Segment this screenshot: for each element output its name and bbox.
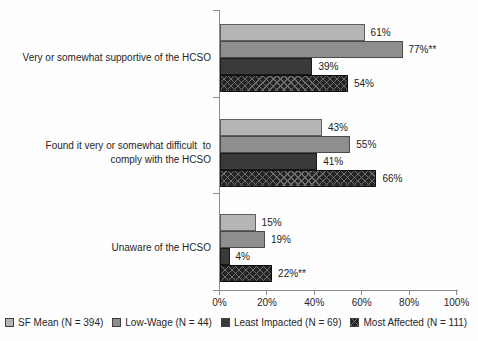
category-label-line: Found it very or somewhat difficult to: [46, 139, 211, 153]
legend-swatch-low-wage: [112, 318, 121, 327]
bar-group-row: Found it very or somewhat difficult toco…: [0, 119, 478, 187]
legend-swatch-least-impacted: [221, 318, 230, 327]
value-label: 41%: [323, 156, 343, 167]
bar-low-wage: [220, 41, 403, 58]
value-label: 43%: [328, 122, 348, 133]
x-tick-label: 80%: [399, 297, 419, 308]
bar-group: Unaware of the HCSO15%19%4%22%**: [0, 193, 478, 290]
bar-row: 4%: [220, 248, 306, 265]
x-axis-tick: [361, 291, 362, 295]
category-label: Unaware of the HCSO: [0, 214, 220, 282]
x-axis-tick: [409, 291, 410, 295]
bar-most-affected: [220, 265, 272, 282]
bar-row: 15%: [220, 214, 306, 231]
x-tick-label: 0%: [212, 297, 226, 308]
category-label: Very or somewhat supportive of the HCSO: [0, 24, 220, 92]
value-label: 66%: [382, 173, 402, 184]
bar-group-row: Unaware of the HCSO15%19%4%22%**: [0, 214, 478, 282]
bar-group: Found it very or somewhat difficult toco…: [0, 97, 478, 193]
x-tick-label: 20%: [257, 297, 277, 308]
value-label: 61%: [371, 27, 391, 38]
legend-swatch-sf-mean: [5, 318, 14, 327]
x-axis-tick: [314, 291, 315, 295]
bar-row: 55%: [220, 136, 402, 153]
bar-group: Very or somewhat supportive of the HCSO6…: [0, 10, 478, 97]
value-label: 77%**: [409, 44, 437, 55]
value-label: 55%: [356, 139, 376, 150]
legend-item-most-affected: Most Affected (N = 111): [350, 317, 467, 328]
legend-item-least-impacted: Least Impacted (N = 69): [221, 317, 342, 328]
bar-row: 54%: [220, 75, 436, 92]
value-label: 22%**: [278, 268, 306, 279]
bar-row: 43%: [220, 119, 402, 136]
bar-most-affected: [220, 75, 348, 92]
bar-row: 39%: [220, 58, 436, 75]
bar-row: 19%: [220, 231, 306, 248]
x-tick-label: 60%: [352, 297, 372, 308]
x-axis-tick: [266, 291, 267, 295]
y-axis-tick: [213, 97, 219, 98]
y-axis-tick: [213, 10, 219, 11]
bar-least-impacted: [220, 58, 312, 75]
bar-row: 41%: [220, 153, 402, 170]
legend-label: Most Affected (N = 111): [363, 317, 467, 328]
bar-stack: 43%55%41%66%: [220, 119, 402, 187]
bar-sf-mean: [220, 119, 322, 136]
legend-label: Low-Wage (N = 44): [125, 317, 212, 328]
bar-low-wage: [220, 136, 350, 153]
value-label: 4%: [236, 251, 250, 262]
bar-sf-mean: [220, 214, 256, 231]
bar-group-row: Very or somewhat supportive of the HCSO6…: [0, 24, 478, 92]
bar-least-impacted: [220, 153, 317, 170]
x-axis: [219, 290, 458, 291]
legend-item-low-wage: Low-Wage (N = 44): [112, 317, 212, 328]
legend: SF Mean (N = 394)Low-Wage (N = 44)Least …: [5, 317, 475, 328]
value-label: 39%: [318, 61, 338, 72]
x-axis-tick: [219, 291, 220, 295]
y-axis: [219, 10, 220, 291]
category-label-line: comply with the HCSO: [110, 153, 211, 167]
bar-groups: Very or somewhat supportive of the HCSO6…: [0, 10, 478, 290]
bar-row: 77%**: [220, 41, 436, 58]
bar-low-wage: [220, 231, 265, 248]
value-label: 19%: [271, 234, 291, 245]
bar-least-impacted: [220, 248, 230, 265]
bar-stack: 61%77%**39%54%: [220, 24, 436, 92]
legend-label: Least Impacted (N = 69): [234, 317, 342, 328]
x-tick-label: 40%: [304, 297, 324, 308]
bar-most-affected: [220, 170, 376, 187]
category-label: Found it very or somewhat difficult toco…: [0, 119, 220, 187]
value-label: 54%: [354, 78, 374, 89]
y-axis-tick: [213, 193, 219, 194]
chart-container: Very or somewhat supportive of the HCSO6…: [0, 0, 478, 341]
x-axis-tick: [456, 291, 457, 295]
bar-sf-mean: [220, 24, 365, 41]
bar-row: 22%**: [220, 265, 306, 282]
bar-row: 61%: [220, 24, 436, 41]
value-label: 15%: [262, 217, 282, 228]
legend-item-sf-mean: SF Mean (N = 394): [5, 317, 103, 328]
bar-stack: 15%19%4%22%**: [220, 214, 306, 282]
legend-label: SF Mean (N = 394): [18, 317, 103, 328]
bar-row: 66%: [220, 170, 402, 187]
category-label-line: Unaware of the HCSO: [112, 241, 212, 255]
x-tick-label: 100%: [444, 297, 470, 308]
legend-swatch-most-affected: [350, 318, 359, 327]
category-label-line: Very or somewhat supportive of the HCSO: [23, 51, 211, 65]
